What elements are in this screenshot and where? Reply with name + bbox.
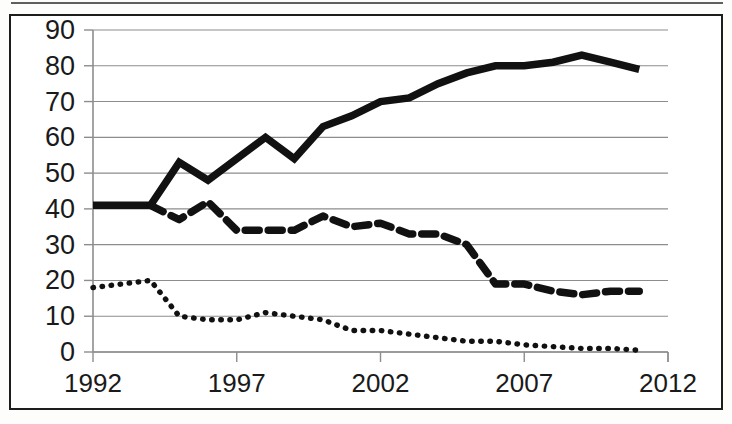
ytick-label-80: 80 <box>45 51 75 81</box>
tickmarks-group <box>84 30 668 362</box>
y-axis-tick-labels: 9080706050403020100 <box>45 15 75 367</box>
x-axis-tick-labels: 19921997200220072012 <box>64 368 697 398</box>
xtick-label-2002: 2002 <box>352 368 410 398</box>
ytick-label-10: 10 <box>45 301 75 331</box>
ytick-label-20: 20 <box>45 265 75 295</box>
ytick-label-0: 0 <box>60 337 75 367</box>
chart-figure: 9080706050403020100 19921997200220072012 <box>0 0 732 424</box>
ytick-label-70: 70 <box>45 87 75 117</box>
xtick-label-2007: 2007 <box>495 368 553 398</box>
ytick-label-90: 90 <box>45 15 75 45</box>
xtick-label-1992: 1992 <box>64 368 122 398</box>
chart-plot-area: 9080706050403020100 19921997200220072012 <box>0 0 732 424</box>
ytick-label-50: 50 <box>45 158 75 188</box>
ytick-label-40: 40 <box>45 194 75 224</box>
xtick-label-1997: 1997 <box>208 368 266 398</box>
series-solid-line <box>93 55 639 205</box>
ytick-label-30: 30 <box>45 230 75 260</box>
xtick-label-2012: 2012 <box>639 368 697 398</box>
ytick-label-60: 60 <box>45 122 75 152</box>
gridlines-group <box>93 30 668 352</box>
